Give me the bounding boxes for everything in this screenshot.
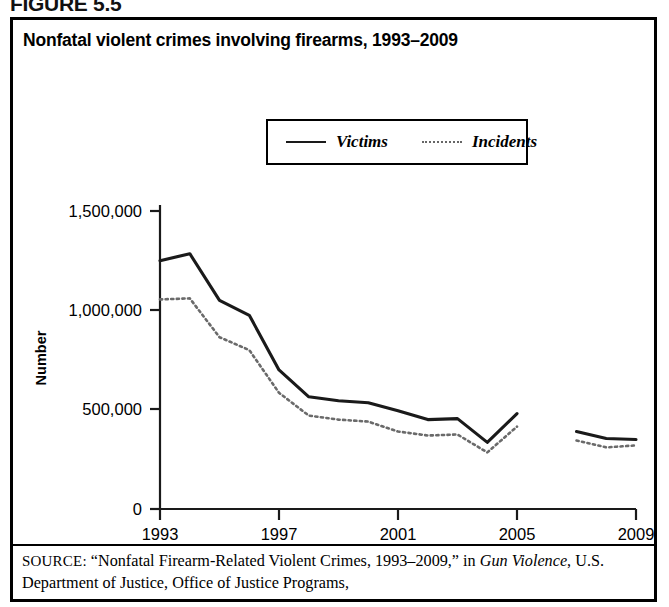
y-axis-title: Number [33,313,49,403]
figure-number-label: FIGURE 5.5 [10,0,121,16]
legend-entry-victims: Victims [286,132,388,152]
x-tick-label-1993: 1993 [120,525,200,544]
legend-swatch-dotted-line-icon [422,141,462,143]
x-tick-label-2005: 2005 [477,525,557,544]
legend-label-incidents: Incidents [472,132,537,152]
chart-title: Nonfatal violent crimes involving firear… [23,30,458,51]
x-tick-label-2001: 2001 [358,525,438,544]
y-tick-label-1500000: 1,500,000 [46,202,142,221]
x-tick-label-2009: 2009 [596,525,669,544]
y-tick-label-500000: 500,000 [46,400,142,419]
x-tick-label-1997: 1997 [239,525,319,544]
source-divider [13,544,654,546]
y-tick-label-0: 0 [46,500,142,519]
source-quoted-title: “Nonfatal Firearm-Related Violent Crimes… [91,552,476,570]
legend-entry-incidents: Incidents [422,132,537,152]
chart-legend: Victims Incidents [266,119,528,165]
legend-label-victims: Victims [336,132,388,152]
y-tick-label-1000000: 1,000,000 [46,301,142,320]
source-keyword: SOURCE: [22,553,87,569]
source-italic-work: Gun Violence [480,552,567,570]
legend-swatch-solid-line-icon [286,141,326,143]
source-note: SOURCE: “Nonfatal Firearm-Related Violen… [22,551,652,594]
